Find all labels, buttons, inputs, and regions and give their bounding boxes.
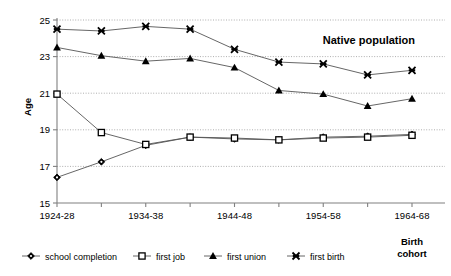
legend-label: first birth: [310, 252, 345, 262]
marker-x-c: [320, 63, 326, 65]
x-tick-label-8: 1964-68: [395, 210, 430, 221]
line-chart: 151719212325Age1924-281934-381944-481954…: [0, 0, 451, 276]
marker-square: [143, 141, 149, 147]
legend-item-first-job[interactable]: first job: [133, 252, 185, 262]
marker-x-c: [143, 25, 149, 27]
marker-square: [276, 137, 282, 143]
y-tick-label-17: 17: [39, 161, 50, 172]
legend-item-first-union[interactable]: first union: [204, 252, 266, 262]
series-first-job: [54, 91, 415, 148]
marker-square: [139, 253, 145, 259]
x-tick-label-2: 1934-38: [128, 210, 163, 221]
marker-x-c: [276, 61, 282, 63]
marker-x-c: [187, 28, 193, 30]
y-tick-label-19: 19: [39, 124, 50, 135]
marker-square: [365, 134, 371, 140]
marker-square: [409, 132, 415, 138]
marker-square: [320, 135, 326, 141]
x-axis-title-line2: cohort: [397, 248, 427, 259]
y-tick-label-21: 21: [39, 88, 50, 99]
marker-x-c: [54, 28, 60, 30]
marker-diamond-center: [56, 176, 58, 178]
marker-x-c: [364, 74, 370, 76]
chart-container: 151719212325Age1924-281934-381944-481954…: [0, 0, 451, 276]
marker-triangle: [186, 55, 194, 62]
legend-label: school completion: [45, 252, 117, 262]
marker-square: [231, 135, 237, 141]
x-tick-label-4: 1944-48: [217, 210, 252, 221]
marker-x-c: [409, 69, 415, 71]
series-first-union: [53, 44, 416, 109]
x-tick-label-6: 1954-58: [306, 210, 341, 221]
marker-x-c: [98, 30, 104, 32]
y-tick-label-15: 15: [39, 198, 50, 209]
legend-item-first-birth[interactable]: first birth: [287, 252, 345, 262]
y-axis-title: Age: [22, 98, 33, 116]
legend-item-school-completion[interactable]: school completion: [22, 252, 117, 262]
x-axis-title-line1: Birth: [401, 236, 423, 247]
marker-square: [98, 129, 104, 135]
x-tick-label-0: 1924-28: [40, 210, 75, 221]
y-tick-label-23: 23: [39, 51, 50, 62]
marker-triangle: [53, 44, 61, 51]
chart-title: Native population: [323, 34, 416, 46]
marker-x-c: [293, 255, 299, 257]
legend-label: first union: [227, 252, 266, 262]
marker-x-c: [231, 48, 237, 50]
marker-triangle: [408, 95, 416, 102]
marker-square: [187, 134, 193, 140]
marker-diamond-center: [100, 161, 102, 163]
marker-square: [54, 91, 60, 97]
y-tick-label-25: 25: [39, 15, 50, 26]
marker-diamond-center: [30, 255, 32, 257]
marker-triangle: [275, 87, 283, 94]
legend-label: first job: [156, 252, 185, 262]
